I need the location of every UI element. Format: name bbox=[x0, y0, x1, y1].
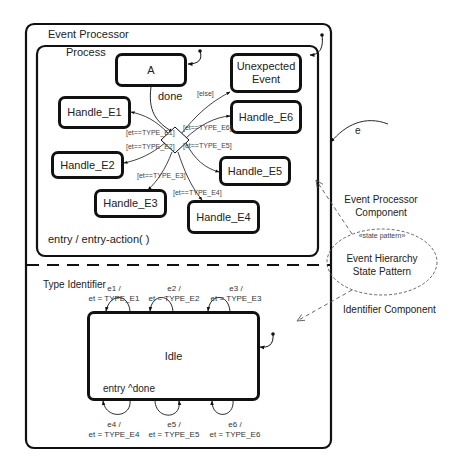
guard-e5: [et==TYPE_E5] bbox=[183, 142, 232, 149]
role-identifier-component: Identifier Component bbox=[343, 304, 436, 315]
guard-e3: [et==TYPE_E3] bbox=[137, 172, 186, 179]
state-unexpected-event[interactable]: Unexpected Event bbox=[230, 53, 302, 93]
pattern-stereotype: «state pattern» bbox=[345, 232, 419, 239]
self-transition-e5: e5 / et = TYPE_E5 bbox=[144, 420, 204, 440]
self-transition-e2: e2 / et = TYPE_E2 bbox=[144, 284, 204, 304]
process-title: Process bbox=[66, 46, 106, 58]
state-handle-e5[interactable]: Handle_E5 bbox=[219, 156, 291, 186]
self-transition-e1: e1 / et = TYPE_E1 bbox=[84, 284, 144, 304]
state-handle-e1[interactable]: Handle_E1 bbox=[58, 96, 131, 129]
guard-e6: [et==TYPE_E6] bbox=[183, 124, 232, 131]
guard-e1: [et==TYPE_E1] bbox=[126, 129, 175, 136]
self-transition-e6: e6 / et = TYPE_E6 bbox=[205, 420, 265, 440]
guard-e2: [et==TYPE_E2] bbox=[126, 143, 175, 150]
transition-done-label: done bbox=[158, 90, 182, 102]
event-processor-title: Event Processor bbox=[48, 28, 129, 40]
state-a[interactable]: A bbox=[115, 53, 187, 87]
idle-entry-action: entry ^done bbox=[103, 383, 155, 394]
self-transition-e4: e4 / et = TYPE_E4 bbox=[84, 420, 144, 440]
guard-e4: [et==TYPE_E4] bbox=[173, 189, 222, 196]
state-handle-e6[interactable]: Handle_E6 bbox=[230, 100, 302, 134]
state-handle-e2[interactable]: Handle_E2 bbox=[51, 151, 124, 179]
pattern-name: Event Hierarchy State Pattern bbox=[337, 252, 427, 278]
role-event-processor-component: Event Processor Component bbox=[326, 193, 436, 219]
event-e-label: e bbox=[355, 125, 361, 136]
state-handle-e4[interactable]: Handle_E4 bbox=[187, 200, 260, 234]
state-handle-e3[interactable]: Handle_E3 bbox=[94, 189, 167, 218]
self-transition-e3: e3 / et = TYPE_E3 bbox=[206, 284, 266, 304]
guard-else: [else] bbox=[197, 90, 214, 97]
process-entry-action: entry / entry-action( ) bbox=[48, 233, 149, 245]
